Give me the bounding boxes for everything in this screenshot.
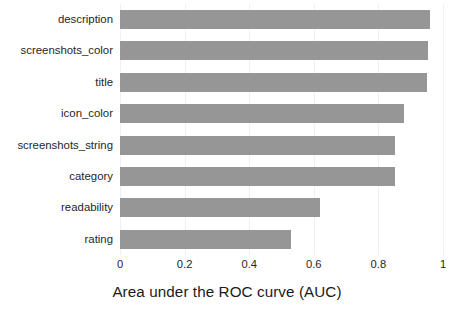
y-axis-label: description — [0, 13, 113, 26]
y-axis-label: icon_color — [0, 107, 113, 120]
x-axis-tick: 1 — [440, 258, 446, 270]
y-axis-label: screenshots_string — [0, 139, 113, 152]
x-axis-tick: 0.6 — [306, 258, 322, 270]
bar — [120, 104, 404, 123]
bar — [120, 41, 428, 60]
x-axis-tick: 0.4 — [241, 258, 257, 270]
bar-row — [120, 161, 443, 192]
bar — [120, 10, 430, 29]
gridline — [443, 4, 444, 255]
bar — [120, 167, 395, 186]
bar-row — [120, 192, 443, 223]
x-axis-title: Area under the ROC curve (AUC) — [0, 283, 454, 300]
plot-area — [120, 4, 443, 255]
bar — [120, 136, 395, 155]
y-axis-category-labels: descriptionscreenshots_colortitleicon_co… — [0, 4, 113, 255]
bar — [120, 230, 291, 249]
bar — [120, 198, 320, 217]
bar-row — [120, 35, 443, 66]
auc-bar-chart: descriptionscreenshots_colortitleicon_co… — [0, 0, 454, 309]
y-axis-label: category — [0, 170, 113, 183]
bar — [120, 73, 427, 92]
y-axis-label: rating — [0, 233, 113, 246]
bar-row — [120, 130, 443, 161]
y-axis-label: readability — [0, 201, 113, 214]
y-axis-label: title — [0, 76, 113, 89]
bar-row — [120, 4, 443, 35]
bar-row — [120, 98, 443, 129]
x-axis-tick: 0.8 — [371, 258, 387, 270]
x-axis-tick: 0 — [117, 258, 123, 270]
y-axis-label: screenshots_color — [0, 44, 113, 57]
bar-row — [120, 67, 443, 98]
x-axis-tick: 0.2 — [177, 258, 193, 270]
bar-row — [120, 224, 443, 255]
